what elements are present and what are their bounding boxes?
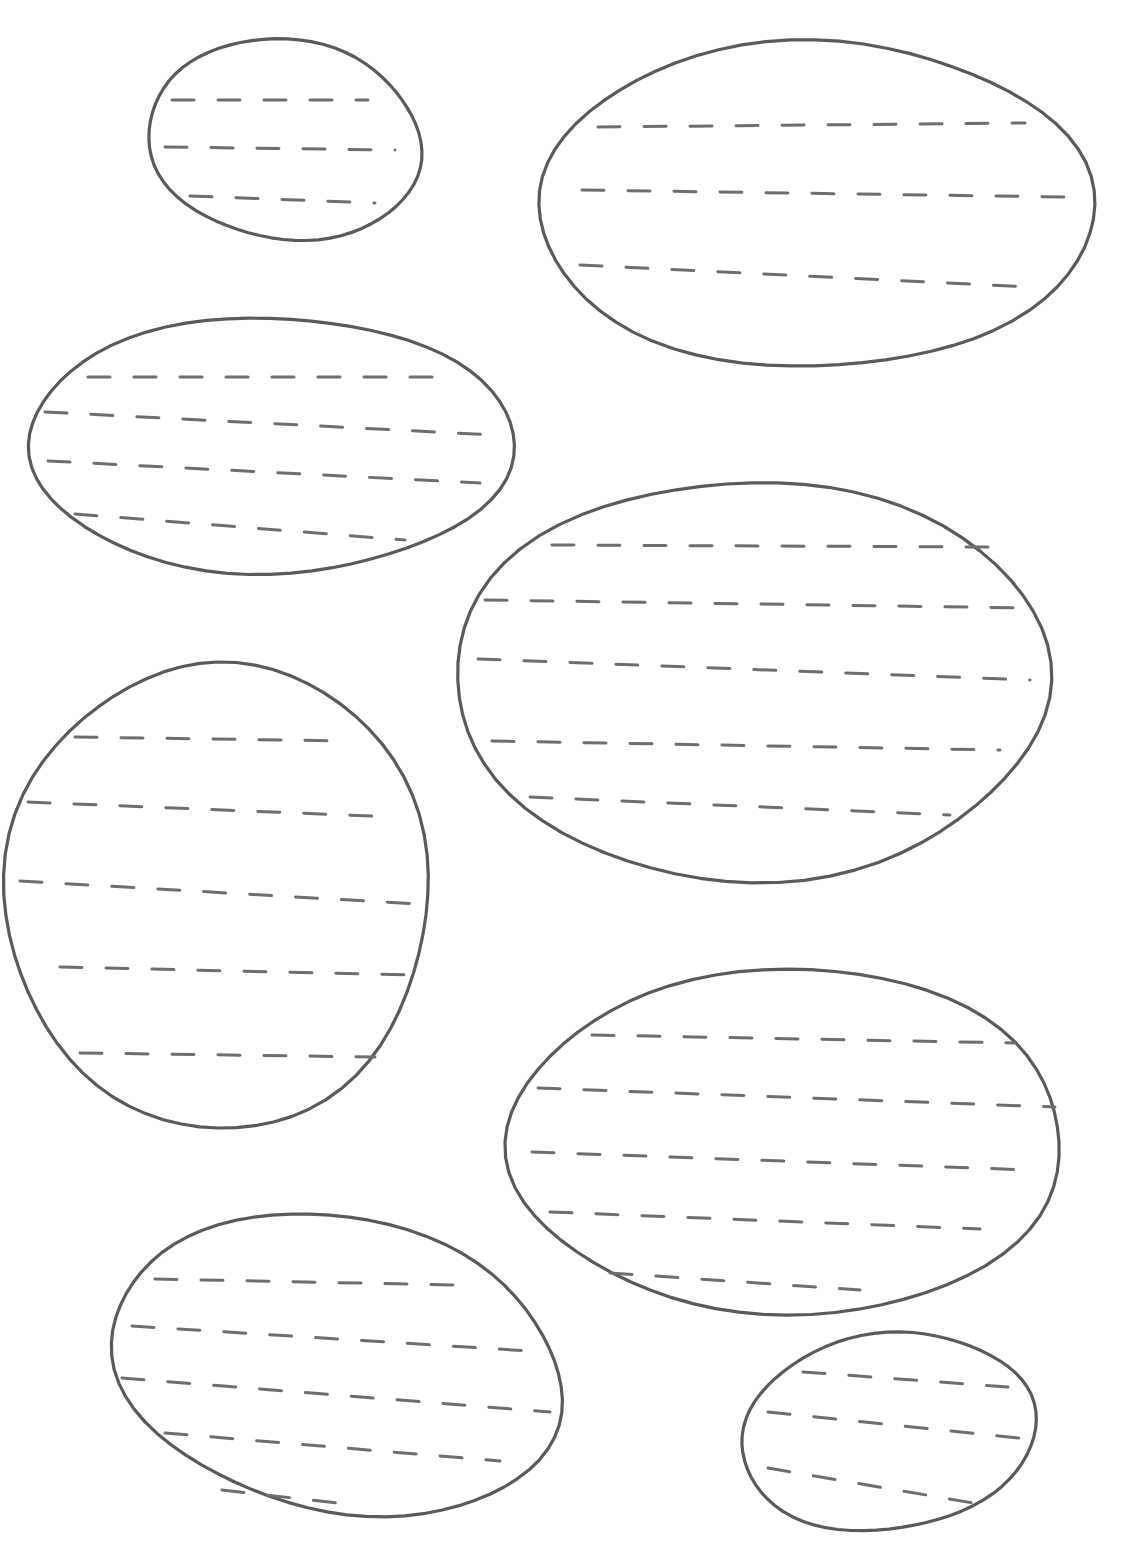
dashed-tracing-line [592, 1035, 1015, 1043]
dashed-tracing-line [165, 1433, 500, 1461]
dashed-tracing-line [538, 1088, 1055, 1107]
dashed-tracing-line [155, 1279, 455, 1285]
oval-outline [149, 39, 422, 241]
oval-outline [28, 318, 514, 574]
dashed-tracing-line [122, 1378, 550, 1412]
dashed-tracing-line [550, 1212, 980, 1229]
dashed-tracing-line [75, 737, 350, 741]
dashed-tracing-line [48, 461, 480, 483]
oval-shapes-layer [4, 39, 1095, 1531]
oval-outline [111, 1214, 562, 1517]
dashed-tracing-line [190, 196, 375, 203]
dashed-tracing-line [28, 802, 395, 817]
dashed-tracing-line [80, 1053, 375, 1057]
dashed-tracing-line [552, 545, 990, 547]
tracing-worksheet [0, 0, 1122, 1548]
dashed-tracing-line [165, 147, 395, 150]
oval-outline [539, 40, 1095, 366]
dashed-tracing-line [532, 1152, 1030, 1170]
oval-outline [742, 1332, 1036, 1531]
dashed-tracing-line [492, 741, 1000, 750]
oval-2 [539, 40, 1095, 366]
oval-outline [458, 483, 1052, 883]
oval-4 [458, 483, 1052, 883]
dashed-tracing-line [803, 1372, 1008, 1387]
dashed-tracing-line [478, 659, 1030, 680]
dashed-tracing-line [768, 1468, 985, 1505]
dashed-tracing-line [60, 967, 410, 975]
dashed-tracing-line [530, 797, 950, 815]
oval-8 [742, 1332, 1036, 1531]
dashed-tracing-line [582, 190, 1065, 197]
oval-outline [505, 969, 1059, 1315]
oval-6 [505, 969, 1059, 1315]
oval-1 [149, 39, 422, 241]
dashed-tracing-line [768, 1412, 1028, 1439]
dashed-tracing-line [45, 412, 495, 435]
dashed-tracing-line [20, 881, 418, 904]
dashed-tracing-line [580, 265, 1030, 287]
dashed-tracing-line [598, 123, 1025, 127]
oval-3 [28, 318, 514, 574]
dashed-tracing-line [485, 600, 1030, 608]
oval-5 [4, 662, 429, 1128]
dashed-tracing-line [132, 1326, 545, 1352]
dashed-tracing-line [75, 514, 405, 540]
oval-7 [111, 1214, 562, 1517]
